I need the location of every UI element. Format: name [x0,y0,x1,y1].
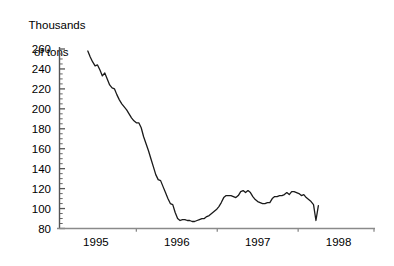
x-axis-labels: 1995199619971998 [83,236,351,248]
cut-off-caption-text: ​ [4,259,174,264]
y-axis-ticks [60,49,66,229]
y-tick-label: 220 [32,83,51,95]
x-tick-label: 1996 [164,236,190,248]
y-tick-label: 80 [38,223,51,235]
x-tick-label: 1995 [83,236,109,248]
y-tick-label: 240 [32,63,51,75]
x-tick-label: 1997 [245,236,271,248]
y-tick-label: 260 [32,43,51,55]
y-tick-label: 100 [32,203,51,215]
y-axis-labels: 80100120140160180200220240260 [32,43,51,235]
y-tick-label: 140 [32,163,51,175]
y-tick-label: 120 [32,183,51,195]
data-series-line [88,51,319,222]
y-tick-label: 180 [32,123,51,135]
y-tick-label: 200 [32,103,51,115]
line-chart-plot: 80100120140160180200220240260 1995199619… [0,0,394,266]
x-tick-label: 1998 [326,236,352,248]
page-text-sliver: ​ [4,259,174,264]
y-tick-label: 160 [32,143,51,155]
chart-figure: Thousands of tons 8010012014016018020022… [0,0,394,266]
